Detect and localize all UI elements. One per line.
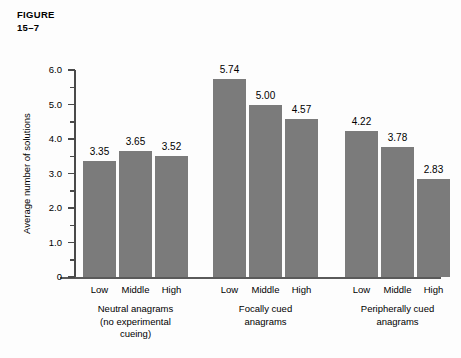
x-category-label: High (147, 285, 196, 295)
y-tick-major (68, 104, 75, 106)
y-tick-minor (70, 259, 75, 261)
bar-value-label: 3.52 (149, 142, 194, 152)
group-caption-line: anagrams (191, 316, 341, 329)
y-tick-label: 6.0 (34, 65, 62, 75)
y-tick-major (68, 138, 75, 140)
bar-value-label: 3.35 (77, 147, 122, 157)
y-tick-label-wrap: 6.0 (32, 65, 62, 75)
group-caption-line: cueing) (61, 328, 211, 341)
y-tick-label: 2.0 (34, 203, 62, 213)
bar-value-label: 5.74 (207, 65, 252, 75)
bar (285, 119, 318, 277)
group-caption-line: (no experimental (61, 316, 211, 329)
y-tick-minor (70, 190, 75, 192)
y-tick-minor (70, 87, 75, 89)
y-tick-label-wrap: 3.0 (32, 169, 62, 179)
y-tick-label: 4.0 (34, 134, 62, 144)
bar-value-label: 4.22 (339, 117, 384, 127)
y-tick-label-wrap: 4.0 (32, 134, 62, 144)
bar (345, 131, 378, 277)
bar-value-label: 3.78 (375, 133, 420, 143)
group-caption-line: Neutral anagrams (61, 303, 211, 316)
group-caption: Neutral anagrams(no experimentalcueing) (61, 303, 211, 341)
group-caption-line: Peripherally cued (323, 303, 461, 316)
y-tick-label: 5.0 (34, 100, 62, 110)
y-tick-major (68, 276, 75, 278)
group-caption-line: anagrams (323, 316, 461, 329)
bar-value-label: 4.57 (279, 105, 324, 115)
bar (249, 105, 282, 278)
y-tick-label: 1.0 (34, 238, 62, 248)
y-tick-minor (70, 121, 75, 123)
bar-value-label: 2.83 (411, 165, 456, 175)
y-tick-major (68, 242, 75, 244)
group-caption-line: Focally cued (191, 303, 341, 316)
y-tick-major (68, 207, 75, 209)
bar-chart-plot: 01.02.03.04.05.06.0 Average number of so… (0, 0, 461, 358)
x-category-label: High (277, 285, 326, 295)
y-tick-label: 0 (34, 272, 62, 282)
bar (381, 147, 414, 277)
bar (119, 151, 152, 277)
y-tick-label-wrap: 2.0 (32, 203, 62, 213)
bar (83, 161, 116, 277)
bar (213, 79, 246, 277)
y-tick-minor (70, 156, 75, 158)
y-tick-label: 3.0 (34, 169, 62, 179)
y-axis-title: Average number of solutions (21, 84, 32, 264)
y-tick-major (68, 69, 75, 71)
y-tick-label-wrap: 5.0 (32, 100, 62, 110)
y-tick-label-wrap: 1.0 (32, 238, 62, 248)
group-caption: Peripherally cuedanagrams (323, 303, 461, 328)
bar (417, 179, 450, 277)
y-tick-major (68, 173, 75, 175)
x-category-label: High (409, 285, 458, 295)
group-caption: Focally cuedanagrams (191, 303, 341, 328)
figure-container: FIGURE 15–7 01.02.03.04.05.06.0 Average … (0, 0, 461, 358)
y-tick-minor (70, 225, 75, 227)
bar-value-label: 5.00 (243, 91, 288, 101)
y-tick-label-wrap: 0 (32, 272, 62, 282)
x-axis-line (60, 277, 441, 279)
bar (155, 156, 188, 277)
